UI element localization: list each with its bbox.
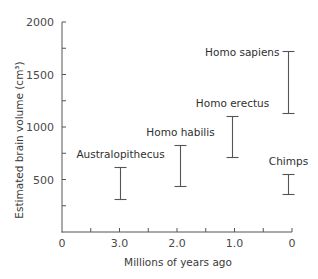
- error-bar-chimps: Chimps: [269, 155, 308, 195]
- y-axis-ticks: 500100015002000: [26, 16, 66, 206]
- y-tick-label: 1000: [26, 121, 54, 134]
- series-label: Homo habilis: [146, 126, 214, 138]
- x-tick-label: 3.0: [111, 237, 129, 250]
- y-tick-label: 500: [33, 174, 54, 187]
- series-label: Chimps: [269, 155, 308, 167]
- x-tick-label: 0: [59, 237, 66, 250]
- series-label: Homo sapiens: [205, 46, 279, 58]
- brain-volume-chart: Estimated brain volume (cm³) Millions of…: [0, 0, 318, 279]
- error-bar-australopithecus: Australopithecus: [76, 148, 164, 200]
- x-axis-ticks: 01.02.03.00: [59, 228, 296, 250]
- x-tick-label: 1.0: [226, 237, 244, 250]
- y-tick-label: 1500: [26, 69, 54, 82]
- x-tick-label: 2.0: [168, 237, 186, 250]
- y-axis-title: Estimated brain volume (cm³): [13, 61, 25, 218]
- series-label: Australopithecus: [76, 148, 164, 160]
- x-tick-label: 0: [289, 237, 296, 250]
- y-tick-label: 2000: [26, 16, 54, 29]
- y-axis-label: Estimated brain volume (cm³): [13, 61, 25, 218]
- series-label: Homo erectus: [196, 97, 269, 109]
- error-bars: AustralopithecusHomo habilisHomo erectus…: [76, 46, 308, 200]
- x-axis-label: Millions of years ago: [124, 256, 232, 268]
